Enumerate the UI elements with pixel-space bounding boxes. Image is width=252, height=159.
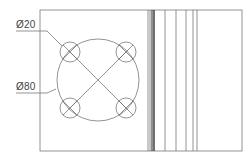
technical-drawing xyxy=(0,0,252,159)
hole-bottom-right xyxy=(116,98,136,118)
hole-top-left xyxy=(60,42,80,62)
side-view-lines xyxy=(148,10,197,151)
hole-top-right xyxy=(116,42,136,62)
dimension-o80: Ø80 xyxy=(16,81,36,92)
dimension-o20: Ø20 xyxy=(16,19,36,30)
hole-bottom-left xyxy=(60,98,80,118)
drawing-frame xyxy=(40,10,242,151)
leader-line-o20 xyxy=(16,31,62,46)
